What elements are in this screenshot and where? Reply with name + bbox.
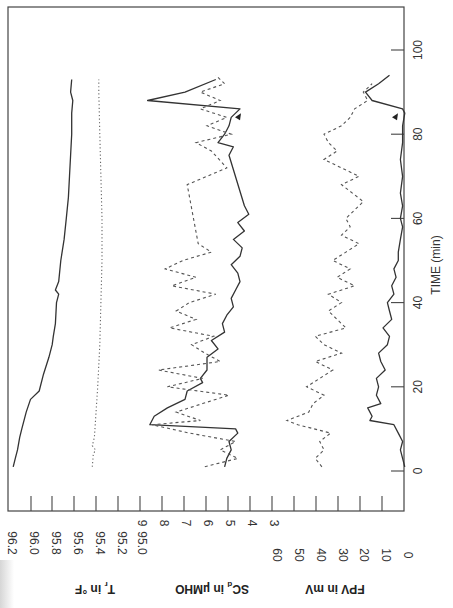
chart: 020406080100 96.296.095.895.695.495.295.… [0, 0, 453, 608]
svg-text:SCd in µMHO: SCd in µMHO [175, 580, 249, 596]
svg-text:TIME (min): TIME (min) [429, 235, 443, 294]
value-tick-label: 20 [357, 548, 371, 562]
value-tick-label: 4 [245, 520, 259, 527]
plot-series [13, 75, 405, 467]
value-tick-label: 50 [292, 548, 306, 562]
series-t-r-dotted [92, 80, 102, 467]
tr-axis-title: Tr in °F [75, 580, 115, 596]
arrow-marker-icon [392, 113, 398, 120]
value-tick-label: 40 [314, 548, 328, 562]
time-tick-label: 100 [411, 40, 425, 60]
time-tick-label: 60 [411, 211, 425, 225]
value-tick-label: 10 [379, 548, 393, 562]
value-tick-label: 95.0 [135, 531, 149, 555]
fpv-axis-title: FPV in mV [305, 582, 364, 596]
value-tick-label: 95.6 [71, 531, 85, 555]
value-tick-label: 96.0 [27, 531, 41, 555]
series-sc-d-solid [148, 80, 249, 467]
value-tick-label: 30 [336, 548, 350, 562]
value-tick-label: 3 [267, 520, 281, 527]
time-tick-label: 80 [411, 127, 425, 141]
svg-text:FPV in mV: FPV in mV [305, 582, 364, 596]
plot-frame [8, 7, 404, 511]
value-tick-label: 6 [201, 520, 215, 527]
axis-labels: 96.296.095.895.695.495.295.0987654360504… [5, 520, 415, 562]
svg-text:Tr in °F: Tr in °F [75, 580, 115, 596]
value-tick-label: 96.2 [5, 531, 19, 555]
time-tick-label: 20 [411, 380, 425, 394]
time-axis-title: TIME (min) [429, 235, 443, 294]
value-tick-label: 95.4 [93, 531, 107, 555]
value-tick-label: 9 [135, 520, 149, 527]
arrow-marker-icon [235, 113, 241, 120]
value-tick-label: 95.8 [49, 531, 63, 555]
value-tick-label: 60 [270, 548, 284, 562]
value-tick-label: 7 [179, 520, 193, 527]
series-fpv-dashed [287, 84, 372, 467]
value-tick-label: 95.2 [115, 531, 129, 555]
time-axis: 020406080100 [391, 40, 425, 475]
value-tick-label: 5 [223, 520, 237, 527]
value-tick-label: 8 [157, 520, 171, 527]
value-tick-label: 0 [401, 552, 415, 559]
series-t-r-solid [13, 80, 73, 467]
time-tick-label: 40 [411, 296, 425, 310]
time-tick-label: 0 [411, 467, 425, 474]
sc-axis-title: SCd in µMHO [175, 580, 249, 596]
value-axis [31, 496, 382, 511]
